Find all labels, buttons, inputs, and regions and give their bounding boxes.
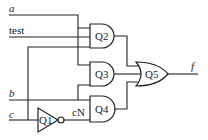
gate-label-q4: Q4 (95, 103, 109, 115)
wire-q4-to-q5 (114, 82, 138, 109)
gate-q4-and: Q4 (90, 96, 115, 122)
logic-circuit-diagram: a test b c Q1 cN Q2 Q3 (0, 0, 208, 140)
output-label-f: f (191, 60, 196, 72)
gate-label-q3: Q3 (95, 68, 109, 80)
gate-label-q1: Q1 (39, 114, 52, 126)
wire-cN: cN (64, 106, 90, 120)
wire-q2-to-q5 (114, 36, 138, 66)
wire-b (9, 85, 90, 100)
gate-q1-not: Q1 (38, 108, 64, 132)
input-label-b: b (9, 87, 15, 99)
input-label-c: c (9, 108, 14, 120)
gate-label-q5: Q5 (145, 68, 159, 80)
wire-f: f (168, 60, 198, 74)
signal-label-cN: cN (72, 106, 85, 118)
input-label-a: a (9, 2, 15, 14)
input-label-test: test (9, 24, 24, 36)
gate-q3-and: Q3 (90, 62, 114, 86)
wire-a (9, 15, 90, 65)
gate-label-q2: Q2 (95, 30, 108, 42)
gate-q2-and: Q2 (90, 24, 114, 48)
gate-q5-or: Q5 (136, 62, 168, 86)
